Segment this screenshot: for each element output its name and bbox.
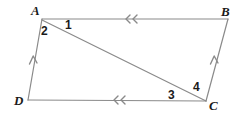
- diagonal-AC: [42, 20, 206, 101]
- angle-label-3: 3: [168, 89, 175, 101]
- geometry-figure: A B C D 1 2 3 4: [0, 0, 241, 116]
- angle-label-4: 4: [193, 81, 200, 93]
- angle-label-2: 2: [41, 25, 48, 37]
- vertex-label-C: C: [209, 99, 218, 112]
- vertex-label-B: B: [221, 5, 230, 18]
- angle-label-1: 1: [65, 19, 72, 31]
- vertex-label-D: D: [14, 94, 23, 107]
- edge-DC: [28, 100, 206, 101]
- arrow-mark-BC: [211, 56, 219, 64]
- vertex-label-A: A: [31, 4, 40, 17]
